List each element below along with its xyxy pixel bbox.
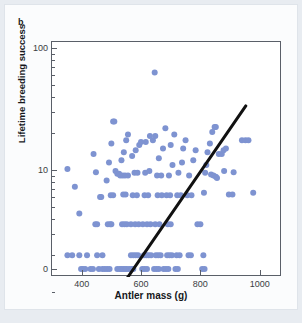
data-point [125,132,131,138]
data-point [207,140,213,146]
figure-card: b 010100 4006008001000 Lifetime breeding… [4,4,298,310]
data-point [202,266,208,272]
data-point [200,252,206,258]
data-point [134,170,140,176]
data-point [99,252,105,258]
data-point [205,149,211,155]
y-minor-tick-mark [52,182,55,183]
y-minor-tick-mark [52,97,55,98]
y-minor-tick-mark [52,54,55,55]
y-tick-mark [52,269,57,270]
data-point [121,149,127,155]
x-tick-label: 600 [134,279,149,289]
data-point [214,175,220,181]
y-minor-tick-mark [52,207,55,208]
data-point [106,160,112,166]
data-point [183,137,189,143]
data-point [156,155,162,161]
scatter-points-layer [64,69,256,272]
data-point [158,173,164,179]
data-point [168,142,174,148]
data-point [111,118,117,124]
data-point [76,252,82,258]
y-minor-tick-mark [52,112,55,113]
data-point [90,266,96,272]
data-point [152,69,158,75]
data-point [188,192,194,198]
data-point [213,124,219,130]
data-point [84,252,90,258]
x-tick-label: 800 [193,279,208,289]
data-point [152,133,158,139]
data-point [110,192,116,198]
data-point [118,157,124,163]
data-point [145,192,151,198]
data-point [76,211,82,217]
y-axis-title: Lifetime breeding success [16,0,27,179]
y-minor-tick-mark [52,85,55,86]
data-point [158,252,164,258]
data-point [197,221,203,227]
data-point [188,252,194,258]
data-point [229,191,235,197]
data-point [201,190,207,196]
data-point [72,184,78,190]
data-point [171,132,177,138]
data-point [107,266,113,272]
data-point [143,139,149,145]
data-point [169,162,175,168]
data-point [94,252,100,258]
x-tick-label: 400 [74,279,89,289]
y-minor-tick-mark [52,219,55,220]
data-point [193,147,199,153]
y-tick-mark [52,170,57,171]
trend-line-path [79,106,245,277]
y-minor-tick-mark [52,197,55,198]
y-minor-tick-mark [52,60,55,61]
x-tick-mark [260,270,261,275]
data-point [133,147,139,153]
data-point [231,169,237,175]
y-minor-tick-mark [52,75,55,76]
data-point [186,173,192,179]
data-point [245,137,251,143]
data-point [168,221,174,227]
y-tick-mark [52,48,57,49]
data-point [129,153,135,159]
x-axis-title: Antler mass (g) [0,290,302,301]
plot-svg [52,42,282,277]
data-point [179,160,185,166]
data-point [166,173,172,179]
data-point [165,266,171,272]
data-point [160,146,166,152]
data-point [64,166,70,172]
data-point [175,170,181,176]
data-point [108,221,114,227]
x-tick-label: 1000 [250,279,270,289]
y-minor-tick-mark [52,67,55,68]
data-point [98,194,104,200]
data-point [190,157,196,163]
data-point [144,266,150,272]
data-point [69,252,75,258]
data-point [123,191,129,197]
y-minor-tick-mark [52,189,55,190]
data-point [134,192,140,198]
y-minor-tick-mark [52,234,55,235]
y-tick-label: 100 [33,43,48,53]
data-point [162,125,168,131]
data-point [104,178,110,184]
x-tick-mark [141,270,142,275]
data-point [221,168,227,174]
y-minor-tick-mark [52,176,55,177]
y-tick-label: 10 [38,165,48,175]
x-tick-mark [200,270,201,275]
data-point [125,173,131,179]
figure-container: b 010100 4006008001000 Lifetime breeding… [0,0,302,323]
data-point [180,146,186,152]
data-point [223,146,229,152]
plot-area: 010100 4006008001000 [51,41,281,276]
data-point [93,169,99,175]
y-minor-tick-mark [52,133,55,134]
data-point [177,252,183,258]
